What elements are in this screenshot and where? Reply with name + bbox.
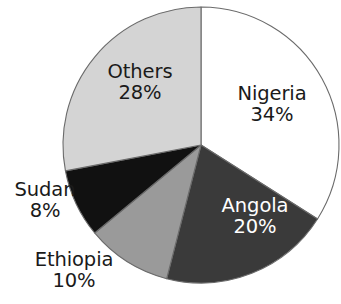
slice-label-angola-name: Angola [196, 196, 314, 217]
slice-label-others-percent: 28% [78, 83, 202, 104]
slice-label-nigeria: Nigeria 34% [213, 84, 331, 125]
slice-label-ethiopia-name: Ethiopia [8, 250, 140, 271]
slice-label-ethiopia: Ethiopia 10% [8, 250, 140, 291]
slice-label-others: Others 28% [78, 62, 202, 103]
slice-label-sudan-percent: 8% [0, 201, 90, 222]
slice-label-nigeria-name: Nigeria [213, 84, 331, 105]
slice-label-sudan-name: Sudan [0, 180, 90, 201]
pie-slice-group [63, 7, 339, 283]
slice-label-nigeria-percent: 34% [213, 105, 331, 126]
slice-label-angola-percent: 20% [196, 217, 314, 238]
slice-label-angola: Angola 20% [196, 196, 314, 237]
pie-chart: Nigeria 34% Angola 20% Ethiopia 10% Suda… [0, 0, 341, 304]
slice-label-sudan: Sudan 8% [0, 180, 90, 221]
slice-label-ethiopia-percent: 10% [8, 271, 140, 292]
slice-label-others-name: Others [78, 62, 202, 83]
